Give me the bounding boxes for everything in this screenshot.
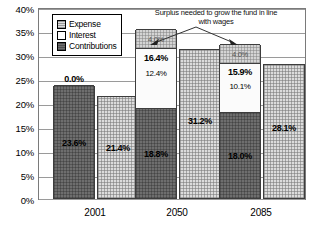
legend-swatch-interest-icon bbox=[57, 31, 66, 40]
segment-contributions: 18.8% bbox=[136, 108, 176, 198]
value-label-interest-total: 16.4% bbox=[136, 53, 176, 63]
legend-swatch-expense-icon bbox=[57, 20, 66, 29]
value-label-contributions: 18.8% bbox=[136, 149, 176, 159]
bar-2085-expense: 28.1% bbox=[263, 64, 305, 199]
legend-item-expense: Expense bbox=[57, 19, 116, 29]
y-tick-label: 20% bbox=[16, 99, 34, 110]
legend-label-interest: Interest bbox=[69, 30, 96, 40]
value-label-contributions: 23.6% bbox=[54, 138, 94, 148]
value-label-surplus: 4.0% bbox=[220, 50, 260, 59]
y-tick-label: 5% bbox=[21, 171, 34, 182]
figure-caption bbox=[2, 222, 313, 233]
bar-2050-expense: 31.2% bbox=[179, 49, 221, 199]
segment-interest: 16.4% 12.4% bbox=[136, 48, 176, 108]
value-label-expense: 28.1% bbox=[264, 123, 304, 133]
y-tick-label: 0% bbox=[21, 195, 34, 206]
x-tick-label-2085: 2085 bbox=[250, 207, 271, 218]
y-axis: 40% 35% 30% 25% 20% 15% 10% 5% 0% bbox=[0, 0, 38, 200]
y-tick-label: 25% bbox=[16, 75, 34, 86]
y-tick-label: 10% bbox=[16, 147, 34, 158]
value-label-surplus-2001: 0.0% bbox=[54, 74, 94, 84]
y-tick-label: 15% bbox=[16, 123, 34, 134]
value-label-expense: 31.2% bbox=[180, 116, 220, 126]
bar-2085-income: 18.0% 15.9% 10.1% 4.0% bbox=[219, 45, 261, 199]
annotation-text: Surplus needed to grow the fund in line … bbox=[152, 8, 280, 26]
y-tick-label: 30% bbox=[16, 51, 34, 62]
x-tick-label-2001: 2001 bbox=[84, 207, 105, 218]
legend-label-expense: Expense bbox=[69, 19, 101, 29]
annotation-arrows-icon bbox=[130, 26, 260, 50]
legend-swatch-contributions-icon bbox=[57, 42, 66, 51]
bar-2001-expense: 21.4% bbox=[97, 96, 139, 199]
legend-label-contributions: Contributions bbox=[69, 41, 116, 51]
segment-interest: 15.9% 10.1% bbox=[220, 63, 260, 112]
segment-contributions: 23.6% bbox=[54, 85, 94, 198]
y-tick-label: 35% bbox=[16, 27, 34, 38]
x-axis: 2001 2050 2085 bbox=[38, 203, 306, 221]
y-tick-label: 40% bbox=[16, 4, 34, 15]
value-label-interest: 12.4% bbox=[136, 69, 176, 78]
gridline bbox=[39, 199, 305, 200]
bar-2001-income: 23.6% 0.0% bbox=[53, 86, 95, 199]
legend: Expense Interest Contributions bbox=[52, 14, 122, 56]
segment-contributions: 18.0% bbox=[220, 112, 260, 198]
value-label-interest-total: 15.9% bbox=[220, 67, 260, 77]
bar-2050-income: 18.8% 16.4% 12.4% 4.0% bbox=[135, 30, 177, 199]
value-label-interest: 10.1% bbox=[220, 82, 260, 91]
value-label-contributions: 18.0% bbox=[220, 151, 260, 161]
x-tick-label-2050: 2050 bbox=[166, 207, 187, 218]
legend-item-contributions: Contributions bbox=[57, 41, 116, 51]
bar-chart: 40% 35% 30% 25% 20% 15% 10% 5% 0% 23.6% … bbox=[0, 0, 315, 234]
value-label-expense: 21.4% bbox=[98, 143, 138, 153]
legend-item-interest: Interest bbox=[57, 30, 116, 40]
